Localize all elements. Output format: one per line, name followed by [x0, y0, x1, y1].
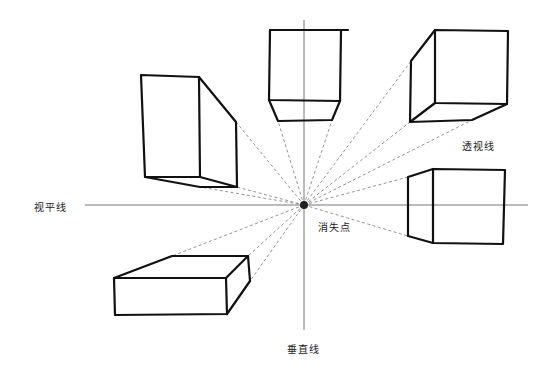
- box-top-left: [141, 75, 237, 187]
- box-top-right: [410, 30, 508, 122]
- box-right: [408, 169, 505, 244]
- vanishing-point-dot: [300, 201, 308, 209]
- horizon-line-label: 视平线: [34, 199, 67, 214]
- one-point-perspective-diagram: [0, 0, 555, 376]
- box-bottom-left: [114, 256, 250, 315]
- box-top-center: [269, 30, 348, 121]
- vertical-line-label: 垂直线: [287, 341, 320, 356]
- perspective-line-label: 透视线: [462, 138, 495, 153]
- vanishing-point-label: 消失点: [318, 219, 351, 234]
